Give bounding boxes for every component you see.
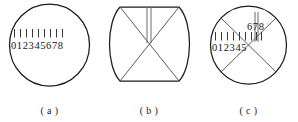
figure-panel-a: 012345678 ( a ) [0,0,99,122]
tick-group-a [15,29,63,38]
scale-label-c-offset: 678 [247,21,265,32]
panel-a-caption: ( a ) [0,106,99,116]
panel-b-caption: ( b ) [100,106,199,116]
scale-label-a: 012345678 [11,40,64,51]
figure-panel-b: ( b ) [100,0,199,122]
panel-c-caption: ( c ) [199,106,298,116]
figure-row: 012345678 ( a ) ( b ) [0,0,298,122]
figure-panel-c: 012345 678 ( c ) [199,0,298,122]
cross-lines-b [120,7,179,81]
scale-label-c-main: 012345 [212,42,247,53]
vertical-pair-b [147,7,151,43]
panel-b-artwork [100,0,199,96]
panel-a-artwork: 012345678 [0,0,99,96]
panel-c-artwork: 012345 678 [199,0,298,96]
